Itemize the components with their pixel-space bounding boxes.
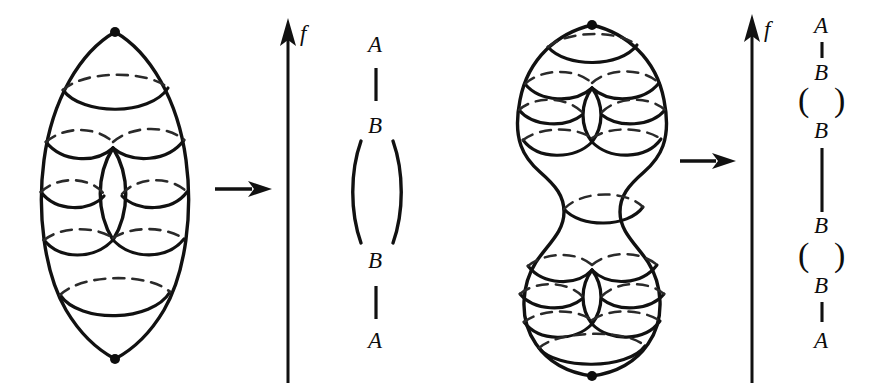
right-f-axis: [744, 14, 760, 383]
right-reeb-node-a-top: A: [814, 14, 828, 37]
right-level-curve-7-saddle: [524, 311, 660, 337]
left-reeb-node-b-bottom: B: [368, 249, 382, 272]
right-reeb-paren-close-2: ): [834, 238, 845, 272]
right-reeb-node-b-3: B: [814, 214, 828, 237]
right-axis-label-f: f: [764, 18, 770, 41]
right-reeb-paren-open-2: (: [798, 238, 809, 272]
right-level-curve-waist: [564, 194, 643, 223]
morse-reeb-figure: f A B ( ) B A f A B ( ) B B ( ) B A: [0, 0, 870, 383]
right-reeb-node-a-bottom: A: [814, 329, 828, 352]
critical-point-min-right: [587, 371, 597, 381]
right-reeb-node-b-2: B: [814, 119, 828, 142]
right-surface-drawing: [0, 0, 870, 383]
critical-point-max-right: [587, 20, 597, 30]
right-level-curve-2-saddle: [525, 71, 659, 98]
right-map-arrow: [680, 153, 736, 169]
left-reeb-node-a-bottom: A: [368, 329, 382, 352]
right-reeb-paren-open-1: (: [798, 83, 809, 117]
left-reeb-node-b-top: B: [368, 114, 382, 137]
right-level-curve-6: [520, 284, 664, 308]
right-level-curve-4-saddle: [523, 129, 661, 155]
right-level-curve-3: [519, 100, 665, 124]
left-axis-label-f: f: [300, 22, 306, 45]
left-reeb-node-a-top: A: [368, 33, 382, 56]
right-reeb-node-b-1: B: [814, 61, 828, 84]
right-reeb-paren-close-1: ): [834, 83, 845, 117]
right-level-curve-5-saddle: [528, 254, 657, 281]
right-reeb-node-b-4: B: [814, 274, 828, 297]
